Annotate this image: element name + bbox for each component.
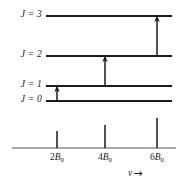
nu-symbol: ν [128, 168, 132, 178]
tick-4b0-symbol: B [103, 152, 109, 162]
transition-arrows [54, 15, 159, 101]
transition-arrow-0-1 [54, 85, 59, 101]
spectrum-tick-label-6b0: 6B0 [150, 152, 164, 162]
energy-level-label-j3: J = 3 [4, 9, 42, 19]
energy-level-label-j2: J = 2 [4, 49, 42, 59]
energy-level-label-j1-text: J = 1 [21, 79, 42, 89]
tick-2b0-subscript: 0 [61, 156, 64, 163]
tick-6b0-subscript: 0 [161, 156, 164, 163]
right-arrow-icon: → [133, 167, 142, 180]
tick-6b0-symbol: B [155, 152, 161, 162]
tick-2b0-symbol: B [55, 152, 61, 162]
spectral-lines [57, 118, 157, 148]
energy-level-label-j0-text: J = 0 [21, 94, 42, 104]
frequency-axis-label: ν→ [128, 166, 141, 179]
energy-level-lines [46, 16, 172, 101]
energy-level-label-j0: J = 0 [4, 94, 42, 104]
spectrum-tick-label-4b0: 4B0 [98, 152, 112, 162]
transition-arrow-2-3 [154, 15, 159, 56]
energy-level-label-j2-text: J = 2 [21, 49, 42, 59]
transition-arrow-1-2 [102, 55, 107, 86]
tick-4b0-subscript: 0 [109, 156, 112, 163]
energy-level-label-j1: J = 1 [4, 79, 42, 89]
energy-level-label-j3-text: J = 3 [21, 9, 42, 19]
energy-level-spectrum-figure: J = 3 J = 2 J = 1 J = 0 2B0 4B0 6B0 ν→ [0, 0, 181, 185]
spectrum-tick-label-2b0: 2B0 [50, 152, 64, 162]
